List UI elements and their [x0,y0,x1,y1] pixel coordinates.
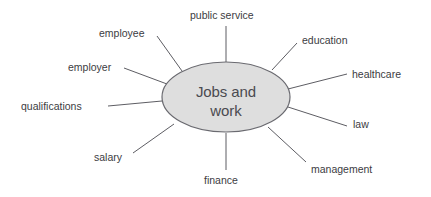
branch-label-healthcare: healthcare [352,69,401,80]
branch-label-salary: salary [94,152,122,163]
branch-label-education: education [302,35,348,46]
branch-label-qualifications: qualifications [21,101,82,112]
spoke-line-healthcare [288,74,347,89]
branch-label-finance: finance [204,175,238,186]
branch-label-employer: employer [68,62,111,73]
spoke-line-employer [124,68,167,84]
spoke-line-law [288,107,347,126]
branch-label-management: management [311,164,372,175]
mind-map-diagram: Jobs and work public service employee em… [0,0,431,197]
spoke-line-education [272,43,297,70]
center-node-label-line2: work [209,102,242,119]
branch-label-law: law [353,119,369,130]
branch-label-employee: employee [99,28,145,39]
spoke-line-employee [157,36,182,71]
spoke-line-qualifications [108,101,162,106]
branch-label-public-service: public service [190,10,254,21]
spoke-line-management [268,127,306,162]
center-node-label-line1: Jobs and [196,83,256,100]
spoke-line-salary [133,124,174,153]
